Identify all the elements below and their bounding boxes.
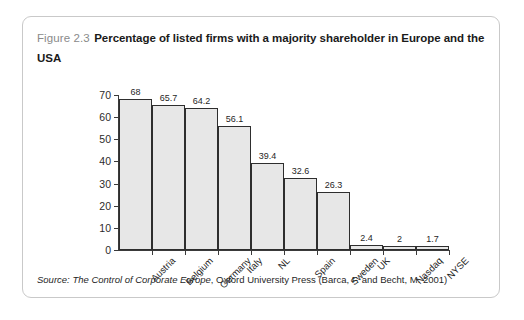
- y-axis-tick-mark: [114, 95, 118, 96]
- bar: [152, 105, 185, 250]
- bar-value-label: 26.3: [325, 180, 343, 190]
- x-axis-tick-mark: [251, 251, 252, 255]
- bar-value-label: 65.7: [160, 93, 178, 103]
- source-note: Source: The Control of Corporate Europe,…: [37, 274, 447, 285]
- y-axis-tick-label: 40: [85, 155, 111, 167]
- y-axis-tick-label: 70: [85, 89, 111, 101]
- y-axis-tick-label: 10: [85, 222, 111, 234]
- bar: [218, 126, 251, 250]
- bar: [383, 246, 416, 250]
- bar: [416, 246, 449, 250]
- bar-value-label: 56.1: [226, 114, 244, 124]
- bar: [185, 108, 218, 250]
- y-axis-tick-label: 50: [85, 133, 111, 145]
- y-axis-tick-label: 60: [85, 111, 111, 123]
- bar-value-label: 2.4: [360, 233, 373, 243]
- bar-value-label: 68: [130, 87, 140, 97]
- y-axis-tick-label: 30: [85, 178, 111, 190]
- x-axis-category-label: UK: [374, 255, 391, 272]
- bar: [119, 99, 152, 250]
- x-axis-tick-mark: [218, 251, 219, 255]
- bar-chart-plot: 010203040506070 6865.764.256.139.432.626…: [23, 65, 501, 265]
- source-prefix: Source:: [37, 274, 70, 285]
- bar-value-label: 1.7: [426, 234, 439, 244]
- x-axis-tick-mark: [449, 251, 450, 255]
- x-axis-tick-mark: [185, 251, 186, 255]
- figure-card: Figure 2.3 Percentage of listed firms wi…: [22, 16, 500, 298]
- bar-value-label: 39.4: [259, 151, 277, 161]
- x-axis-tick-mark: [350, 251, 351, 255]
- x-axis-tick-mark: [317, 251, 318, 255]
- bar-value-label: 2: [397, 234, 402, 244]
- page-title: Percentage of listed firms with a majori…: [37, 32, 484, 64]
- y-axis-tick-label: 0: [85, 244, 111, 256]
- y-axis-tick-mark: [114, 139, 118, 140]
- figure-title-block: Figure 2.3 Percentage of listed firms wi…: [37, 27, 485, 68]
- source-rest: , Oxford University Press (Barca, F. and…: [211, 274, 448, 285]
- bar: [284, 178, 317, 250]
- bar: [350, 245, 383, 250]
- bar: [317, 192, 350, 250]
- bar: [251, 163, 284, 250]
- x-axis-category-label: NL: [275, 255, 291, 271]
- y-axis-tick-mark: [114, 184, 118, 185]
- y-axis-tick-mark: [114, 117, 118, 118]
- y-axis-tick-mark: [114, 250, 118, 251]
- y-axis-tick-label: 20: [85, 200, 111, 212]
- source-title: The Control of Corporate Europe: [72, 274, 210, 285]
- x-axis-category-label: NYSE: [444, 255, 470, 281]
- bar-value-label: 64.2: [193, 96, 211, 106]
- x-axis-category-label: Germany: [217, 255, 252, 290]
- x-axis-tick-mark: [416, 251, 417, 255]
- x-axis-tick-mark: [152, 251, 153, 255]
- y-axis-tick-mark: [114, 206, 118, 207]
- figure-number: Figure 2.3: [37, 32, 90, 44]
- bar-value-label: 32.6: [292, 166, 310, 176]
- y-axis-tick-mark: [114, 161, 118, 162]
- y-axis-tick-mark: [114, 228, 118, 229]
